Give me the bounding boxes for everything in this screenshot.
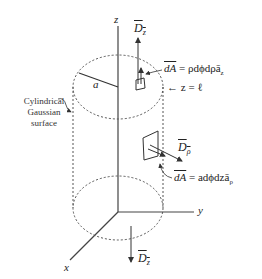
gaussian-cylinder-diagram — [0, 0, 262, 279]
side-Drho-label: Dρ — [178, 141, 191, 156]
x-axis — [70, 212, 118, 260]
surface-label-line-3: surface — [17, 119, 71, 128]
top-dA-pointer — [146, 70, 162, 74]
bottom-Dz-label: Dz — [138, 252, 150, 267]
surface-label-line-1: Cylindrical — [17, 97, 71, 106]
top-dA-equation: dA = ρdϕdρāz — [164, 63, 224, 77]
plane-label: ← z = ℓ — [167, 82, 203, 93]
top-Dz-label: Dz — [134, 22, 146, 37]
radius-label: a — [93, 79, 99, 90]
x-axis-label: x — [64, 262, 69, 273]
z-axis-label: z — [114, 14, 118, 25]
side-dA-arrow — [148, 149, 165, 156]
y-axis-label: y — [198, 205, 203, 216]
surface-label-line-2: Gaussian — [17, 108, 71, 117]
side-dA-equation: dA = adϕdzāρ — [174, 172, 233, 186]
side-dA-pointer — [160, 164, 172, 178]
surface-label: Cylindrical Gaussian surface — [17, 97, 71, 128]
